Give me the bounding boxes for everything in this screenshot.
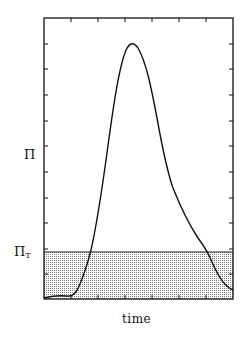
threshold-label-main: Π	[14, 244, 25, 259]
threshold-shaded-region	[44, 252, 233, 299]
threshold-label: ΠT	[14, 244, 31, 260]
chart-plot	[0, 0, 244, 343]
y-axis-label: Π	[24, 147, 35, 162]
threshold-label-sub: T	[25, 251, 30, 260]
x-axis-label: time	[122, 312, 151, 326]
